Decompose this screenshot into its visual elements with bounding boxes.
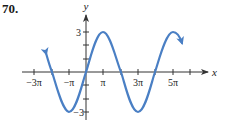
- x-tick-label-3pi: 3π: [133, 77, 143, 88]
- x-axis-label: x: [211, 66, 217, 78]
- x-tick-label-neg3pi: −3π: [26, 77, 42, 88]
- y-tick-label-neg3: −3: [73, 107, 84, 118]
- y-tick-label-3: 3: [76, 27, 81, 38]
- x-tick-label-negpi: −π: [64, 77, 75, 88]
- sine-graph: −3π −π π 3π 5π x 3 −3 y: [0, 0, 230, 128]
- y-axis-label: y: [83, 0, 89, 12]
- x-tick-label-5pi: 5π: [168, 77, 178, 88]
- x-tick-label-pi: π: [100, 77, 105, 88]
